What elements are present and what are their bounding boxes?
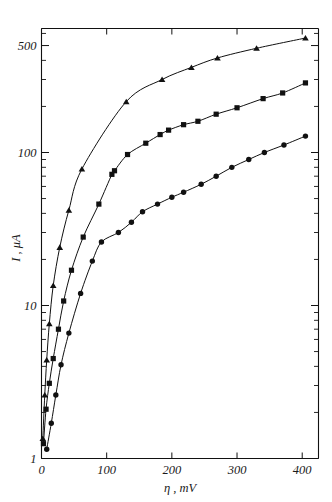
data-point-square (43, 407, 48, 412)
data-point-triangle (159, 77, 166, 83)
x-axis-title: η , mV (164, 481, 198, 495)
data-point-square (214, 112, 219, 117)
y-tick-label: 10 (24, 299, 37, 313)
data-point-square (56, 327, 61, 332)
data-point-triangle (43, 357, 50, 363)
data-point-square (81, 234, 86, 239)
x-tick-label: 300 (227, 463, 248, 477)
y-axis-title: I , μA (9, 234, 23, 263)
data-point-circle (44, 447, 49, 452)
data-point-square (303, 80, 308, 85)
data-point-square (69, 268, 74, 273)
data-point-triangle (56, 244, 63, 250)
data-point-circle (53, 392, 58, 397)
data-point-triangle (188, 64, 195, 70)
data-point-triangle (50, 283, 57, 289)
data-point-square (181, 122, 186, 127)
x-tick-label: 100 (97, 463, 117, 477)
data-point-triangle (302, 35, 309, 41)
data-point-triangle (79, 166, 86, 172)
data-point-circle (281, 142, 286, 147)
data-point-circle (213, 174, 218, 179)
data-point-triangle (66, 207, 73, 213)
data-point-triangle (40, 436, 47, 442)
data-point-circle (181, 190, 186, 195)
data-point-square (112, 168, 117, 173)
y-tick-label: 500 (18, 39, 38, 53)
y-tick-label: 100 (18, 146, 38, 160)
x-tick-label: 200 (162, 463, 182, 477)
data-point-square (61, 298, 66, 303)
x-tick-label: 400 (293, 463, 313, 477)
data-point-circle (116, 230, 121, 235)
data-point-circle (78, 291, 83, 296)
data-point-circle (262, 150, 267, 155)
curves-group (43, 38, 306, 449)
data-point-circle (198, 182, 203, 187)
data-point-circle (49, 421, 54, 426)
x-tick-label: 0 (38, 463, 45, 477)
data-point-circle (129, 220, 134, 225)
data-point-circle (169, 195, 174, 200)
data-point-circle (155, 201, 160, 206)
data-point-circle (99, 239, 104, 244)
data-point-square (41, 441, 46, 446)
data-point-square (158, 132, 163, 137)
data-point-square (143, 141, 148, 146)
data-point-square (261, 96, 266, 101)
data-point-square (234, 105, 239, 110)
axis-titles-group: η , mVI , μA (9, 234, 197, 495)
data-point-square (195, 119, 200, 124)
data-point-circle (90, 258, 95, 263)
curve-circle (47, 136, 306, 449)
data-point-square (96, 202, 101, 207)
data-point-circle (246, 157, 251, 162)
data-point-circle (303, 133, 308, 138)
tick-marks-group (42, 29, 319, 459)
axes-group (42, 29, 319, 459)
data-point-circle (58, 362, 63, 367)
data-point-square (47, 381, 52, 386)
data-point-circle (140, 209, 145, 214)
data-point-square (51, 356, 56, 361)
data-point-square (166, 128, 171, 133)
curve-square (43, 83, 305, 444)
data-point-square (280, 90, 285, 95)
data-point-circle (229, 165, 234, 170)
chart-canvas: 1101005000100200300400 η , mVI , μA (0, 0, 332, 502)
figure-container: 1101005000100200300400 η , mVI , μA (0, 0, 332, 502)
data-point-triangle (46, 321, 53, 327)
data-point-square (125, 152, 130, 157)
y-tick-label: 1 (30, 452, 36, 466)
data-point-circle (66, 330, 71, 335)
tick-labels-group: 1101005000100200300400 (18, 39, 313, 477)
data-point-triangle (41, 392, 48, 398)
